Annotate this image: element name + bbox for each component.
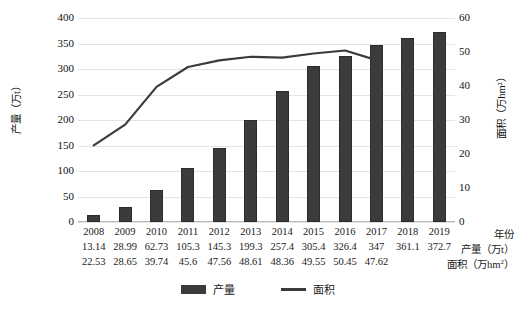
table-cell: 48.61 xyxy=(235,256,266,267)
bar-swatch-icon xyxy=(181,285,206,294)
table-cell: 305.4 xyxy=(298,241,329,252)
y-axis-left-tick-label: 250 xyxy=(40,88,74,100)
table-cell: 28.65 xyxy=(109,256,140,267)
plot-area xyxy=(78,18,455,222)
table-cell: 2018 xyxy=(392,226,423,237)
table-cell: 145.3 xyxy=(204,241,235,252)
table-cell: 2019 xyxy=(424,226,455,237)
y-axis-right-tick-label: 60 xyxy=(459,11,493,23)
y-axis-left-tick-label: 400 xyxy=(40,11,74,23)
table-cell: 2015 xyxy=(298,226,329,237)
y-axis-left-tick-label: 150 xyxy=(40,139,74,151)
table-cell: 50.45 xyxy=(329,256,360,267)
chart-container: 产量（万t） 面积（万hm²） 400350300250200150100500… xyxy=(0,0,515,312)
table-cell: 45.6 xyxy=(172,256,203,267)
table-row: 面积（万hm2）22.5328.6539.7445.647.5648.6148.… xyxy=(0,256,515,271)
table-cell: 2011 xyxy=(172,226,203,237)
legend-item-area: 面积 xyxy=(281,281,335,297)
table-cell: 49.55 xyxy=(298,256,329,267)
table-cell: 39.74 xyxy=(141,256,172,267)
table-cell: 347 xyxy=(361,241,392,252)
table-cell: 13.14 xyxy=(78,241,109,252)
line-swatch-icon xyxy=(281,288,306,291)
table-cell: 2008 xyxy=(78,226,109,237)
table-row-label: 面积（万hm2） xyxy=(437,256,515,271)
y-axis-right-title: 面积（万hm²） xyxy=(493,58,508,154)
table-row: 产量（万t）13.1428.9962.73105.3145.3199.3257.… xyxy=(0,241,515,256)
y-axis-left-title: 产量（万t） xyxy=(8,60,23,156)
table-cell: 2013 xyxy=(235,226,266,237)
line-series-path xyxy=(94,50,377,145)
table-cell: 62.73 xyxy=(141,241,172,252)
table-cell: 199.3 xyxy=(235,241,266,252)
table-cell: 326.4 xyxy=(329,241,360,252)
line-series xyxy=(78,18,455,222)
legend-label-production: 产量 xyxy=(213,281,235,297)
table-cell: 372.7 xyxy=(424,241,455,252)
y-axis-right-tick-label: 10 xyxy=(459,181,493,193)
table-cell: 47.62 xyxy=(361,256,392,267)
chart-legend: 产量 面积 xyxy=(0,281,515,297)
y-axis-right-tick-label: 50 xyxy=(459,45,493,57)
y-axis-left-tick-label: 50 xyxy=(40,190,74,202)
legend-item-production: 产量 xyxy=(181,281,235,297)
table-cell: 2016 xyxy=(329,226,360,237)
gridline xyxy=(78,222,455,223)
y-axis-left-tick-label: 300 xyxy=(40,62,74,74)
table-cell: 2009 xyxy=(109,226,140,237)
table-cell: 2017 xyxy=(361,226,392,237)
table-cell: 2012 xyxy=(204,226,235,237)
legend-label-area: 面积 xyxy=(313,281,335,297)
table-row: 年份20082009201020112012201320142015201620… xyxy=(0,226,515,241)
table-cell: 105.3 xyxy=(172,241,203,252)
table-cell: 48.36 xyxy=(267,256,298,267)
y-axis-right-tick-label: 40 xyxy=(459,79,493,91)
table-cell: 47.56 xyxy=(204,256,235,267)
y-axis-left-tick-label: 200 xyxy=(40,113,74,125)
y-axis-right-tick-label: 20 xyxy=(459,147,493,159)
data-table: 年份20082009201020112012201320142015201620… xyxy=(0,226,515,271)
table-cell: 257.4 xyxy=(267,241,298,252)
table-cell: 22.53 xyxy=(78,256,109,267)
y-axis-right-tick-label: 30 xyxy=(459,113,493,125)
table-cell: 2010 xyxy=(141,226,172,237)
y-axis-left-tick-label: 100 xyxy=(40,164,74,176)
table-cell: 361.1 xyxy=(392,241,423,252)
y-axis-left-tick-label: 350 xyxy=(40,37,74,49)
table-cell: 2014 xyxy=(267,226,298,237)
table-cell: 28.99 xyxy=(109,241,140,252)
